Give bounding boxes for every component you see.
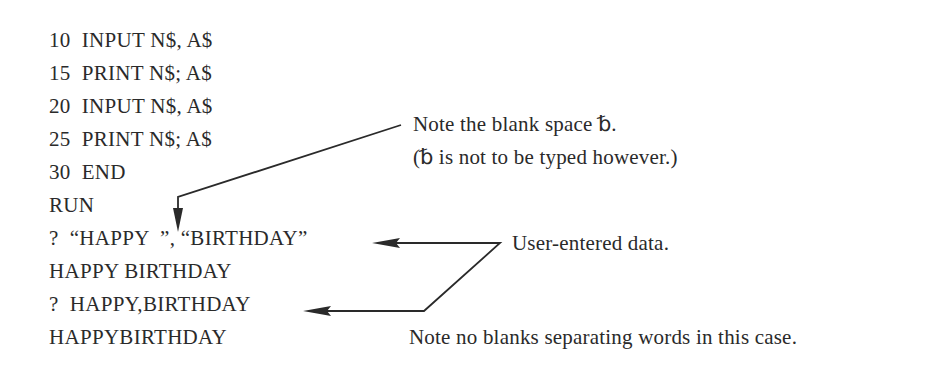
user-entered-arrows-icon <box>303 238 500 316</box>
annotation-arrows <box>0 0 946 378</box>
blank-space-arrow-icon <box>173 125 401 232</box>
